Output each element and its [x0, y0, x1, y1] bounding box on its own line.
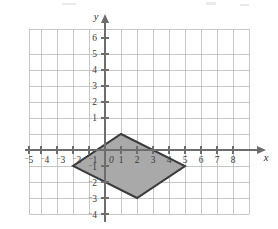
y-tick-label: 1 [92, 162, 97, 172]
x-tick-label: 4 [167, 155, 172, 165]
y-axis-arrow-icon [101, 14, 109, 23]
svg-text:–4: –4 [88, 209, 98, 220]
y-tick-label: 2 [92, 97, 97, 107]
y-tick-label: 2 [92, 178, 97, 188]
y-tick-label: 6 [92, 33, 97, 43]
x-tick-label: 7 [215, 155, 220, 165]
x-tick-label: 8 [231, 155, 236, 165]
scan-artifact [62, 3, 76, 5]
x-axis-label: x [263, 152, 269, 163]
y-tick-label: 1 [92, 113, 97, 123]
svg-text:–5: –5 [24, 154, 34, 165]
x-tick-label: 5 [28, 155, 33, 165]
x-tick-label: 1 [119, 155, 124, 165]
scan-artifact [206, 2, 216, 5]
x-tick-label: 6 [199, 155, 204, 165]
x-tick-label: 5 [183, 155, 188, 165]
origin-label: 0 [109, 155, 114, 165]
coordinate-plane-svg: –5 –4 –3 –2 –1 1 2 3 4 5 6 7 8 6 5 4 3 2… [0, 0, 278, 229]
y-tick-label: 4 [92, 65, 97, 75]
scan-artifact [240, 4, 249, 6]
y-tick-label: 3 [92, 194, 97, 204]
y-tick-label: 4 [92, 210, 97, 220]
x-tick-label: 3 [151, 155, 156, 165]
y-tick-label: 3 [92, 81, 97, 91]
x-tick-label: 2 [76, 155, 81, 165]
y-tick-label: 5 [92, 49, 97, 59]
x-tick-label: 3 [60, 155, 65, 165]
x-tick-label: 4 [44, 155, 49, 165]
coordinate-plane-figure: –5 –4 –3 –2 –1 1 2 3 4 5 6 7 8 6 5 4 3 2… [0, 0, 278, 229]
y-axis-label: y [93, 11, 99, 22]
x-tick-label: 2 [135, 155, 140, 165]
